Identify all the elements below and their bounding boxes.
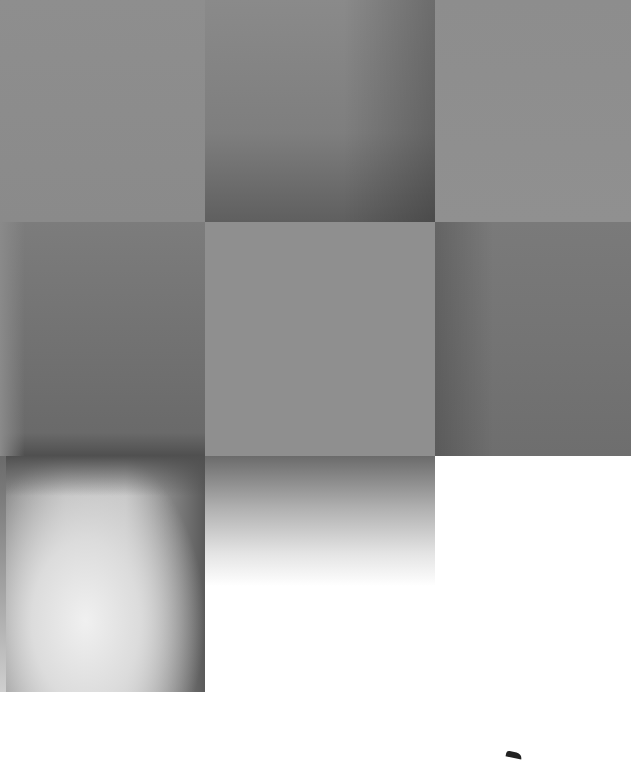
tile-top-right <box>435 0 631 222</box>
tile-bottom-left-shadow <box>6 456 205 496</box>
tile-top-center <box>205 0 435 222</box>
tile-middle-right <box>435 222 631 456</box>
tile-center <box>205 222 435 456</box>
tile-middle-left <box>0 222 205 456</box>
dark-mark <box>506 750 523 759</box>
tile-top-left <box>0 0 205 222</box>
tile-bottom-center-fade <box>205 456 435 586</box>
